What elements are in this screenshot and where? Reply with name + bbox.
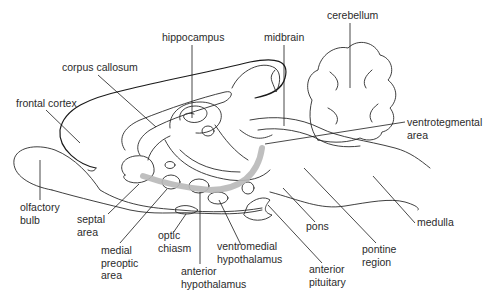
label-line: hypothalamus [217, 253, 282, 266]
label-line: medulla [417, 216, 454, 229]
leader-frontal-cortex [46, 110, 80, 143]
ventromedial-hypothalamic-nucleus [208, 192, 228, 204]
label-line: hypothalamus [181, 278, 246, 291]
neural-pathway [143, 148, 262, 190]
label-line: chiasm [158, 242, 191, 255]
label-line: area [407, 129, 482, 142]
label-line: olfactory [20, 201, 60, 214]
leader-pons [283, 188, 315, 222]
frontal-cortex-inner-outline [88, 168, 96, 171]
label-line: anterior [181, 265, 246, 278]
hindbrain-ventral-outline [270, 192, 418, 210]
label-ventrotegmental-area: ventrotegmental area [407, 116, 482, 141]
thalamus-curve-5 [148, 136, 170, 160]
label-frontal-cortex: frontal cortex [16, 97, 77, 110]
label-line: septal [77, 213, 105, 226]
cerebellum-fold-1 [330, 72, 338, 90]
midbrain-outline [232, 65, 280, 92]
label-line: pons [306, 220, 329, 233]
label-line: area [77, 226, 105, 239]
label-olfactory-bulb: olfactory bulb [20, 201, 60, 226]
label-line: midbrain [264, 31, 304, 44]
label-line: area [101, 269, 138, 282]
label-pons: pons [306, 220, 329, 233]
label-line: frontal cortex [16, 97, 77, 110]
label-ventromedial-hypothalamus: ventromedial hypothalamus [217, 240, 282, 265]
label-line: pontine [362, 243, 396, 256]
label-line: medial [101, 244, 138, 257]
label-line: cerebellum [327, 9, 378, 22]
cerebellum-fold-3 [328, 108, 338, 124]
leader-septal-area [108, 184, 139, 214]
thalamus-curve-2 [180, 150, 240, 172]
label-septal-area: septal area [77, 213, 105, 238]
label-line: bulb [20, 214, 60, 227]
label-line: pituitary [309, 276, 346, 289]
leader-corpus-callosum [98, 75, 156, 127]
label-line: region [362, 256, 396, 269]
label-line: anterior [309, 263, 346, 276]
label-optic-chiasm: optic chiasm [158, 229, 191, 254]
leader-medulla [373, 176, 415, 223]
label-corpus-callosum: corpus callosum [62, 61, 138, 74]
thalamus-curve-4 [240, 130, 272, 138]
label-line: corpus callosum [62, 61, 138, 74]
label-anterior-hypothalamus: anterior hypothalamus [181, 265, 246, 290]
leader-ventromedial-hypothalamus [219, 200, 241, 245]
small-nucleus-outline [202, 126, 214, 136]
corpus-callosum-outline [122, 92, 232, 155]
label-cerebellum: cerebellum [327, 9, 378, 22]
label-midbrain: midbrain [264, 31, 304, 44]
label-line: ventrotegmental [407, 116, 482, 129]
label-medulla: medulla [417, 216, 454, 229]
leader-ventrotegmental-area [265, 122, 405, 144]
label-hippocampus: hippocampus [162, 31, 224, 44]
cerebellum-fold-2 [364, 70, 372, 88]
thalamus-curve-3 [215, 125, 248, 160]
cerebellum-fold-4 [370, 104, 378, 122]
label-anterior-pituitary: anterior pituitary [309, 263, 346, 288]
small-preoptic-nucleus [165, 162, 175, 169]
ventral-surface-outline [52, 190, 262, 214]
label-line: hippocampus [162, 31, 224, 44]
label-pontine-region: pontine region [362, 243, 396, 268]
cerebellum-outline [308, 42, 396, 142]
label-medial-preoptic-area: medial preoptic area [101, 244, 138, 282]
label-line: ventromedial [217, 240, 282, 253]
label-line: optic [158, 229, 191, 242]
brainstem-dorsal-outline [250, 118, 430, 168]
label-line: preoptic [101, 257, 138, 270]
